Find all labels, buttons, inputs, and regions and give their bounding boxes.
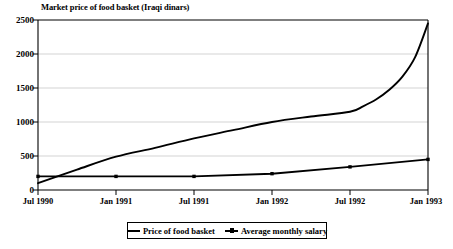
x-axis-label-jan-1993: Jan 1993 (400, 196, 452, 206)
data-point-marker (270, 172, 273, 175)
legend-line-icon (127, 226, 140, 235)
data-point-marker (114, 175, 117, 178)
x-tick-marks (38, 190, 428, 195)
legend-label: Average monthly salary (241, 226, 327, 236)
legend-line-marker-icon (225, 226, 238, 235)
data-point-marker (36, 175, 39, 178)
legend-entry-average-monthly-salary: Average monthly salary (225, 226, 327, 236)
y-tick-marks (33, 20, 38, 190)
data-point-marker (348, 165, 351, 168)
x-axis-label-jul-1991: Jul 1991 (168, 196, 220, 206)
legend-label: Price of food basket (143, 226, 215, 236)
x-axis-label-jan-1991: Jan 1991 (90, 196, 142, 206)
series-average-monthly-salary (36, 158, 429, 178)
x-axis-label-jul-1992: Jul 1992 (324, 196, 376, 206)
chart-legend: Price of food basket Average monthly sal… (127, 222, 327, 239)
legend-entry-price-of-food-basket: Price of food basket (127, 226, 215, 236)
data-point-marker (192, 175, 195, 178)
series-line (38, 23, 428, 183)
series-price-of-food-basket (38, 23, 428, 183)
x-axis-label-jul-1990: Jul 1990 (12, 196, 64, 206)
grid-lines (38, 54, 428, 156)
plot-area (0, 0, 453, 249)
data-point-marker (426, 158, 429, 161)
x-axis-label-jan-1992: Jan 1992 (246, 196, 298, 206)
chart-figure: Market price of food basket (Iraqi dinar… (0, 0, 453, 249)
series-layer (36, 23, 429, 183)
